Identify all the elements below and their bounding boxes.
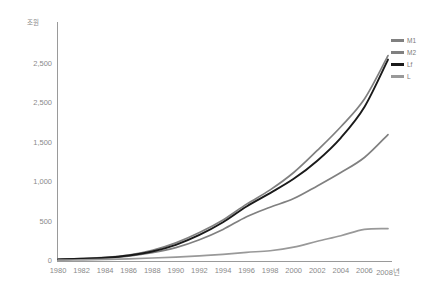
- x-tick-label: 2004: [333, 266, 350, 275]
- x-tick-label: 1980: [50, 266, 67, 275]
- x-axis-labels: 1980198219841986198819901992199419961998…: [0, 266, 437, 282]
- y-tick-label: 1,000: [16, 178, 52, 186]
- x-tick-label: 1990: [168, 266, 185, 275]
- x-tick-label: 1986: [120, 266, 137, 275]
- y-tick-label: 0: [16, 257, 52, 265]
- legend-swatch-icon: [391, 75, 404, 78]
- legend-item-m2[interactable]: M2: [391, 46, 437, 58]
- x-tick-label: 1994: [215, 266, 232, 275]
- chart-legend: M1M2LfL: [391, 34, 437, 82]
- legend-item-m1[interactable]: M1: [391, 34, 437, 46]
- series-group: [58, 56, 388, 261]
- x-tick-label: 2002: [309, 266, 326, 275]
- x-tick-label: 2006: [356, 266, 373, 275]
- legend-label: L: [407, 73, 411, 80]
- legend-label: M2: [407, 49, 416, 56]
- legend-item-l[interactable]: L: [391, 70, 437, 82]
- y-tick-label: 500: [16, 218, 52, 226]
- y-axis-labels: 05001,0001,5002,5002,500: [14, 0, 52, 295]
- series-line-m2: [58, 135, 388, 260]
- legend-swatch-icon: [391, 39, 404, 42]
- x-tick-label: 2008년: [376, 266, 400, 277]
- legend-label: M1: [407, 37, 416, 44]
- y-tick-label: 2,500: [16, 60, 52, 68]
- y-tick-label: 1,500: [16, 139, 52, 147]
- x-tick-label: 1988: [144, 266, 161, 275]
- legend-label: Lf: [407, 61, 412, 68]
- x-tick-label: 1982: [73, 266, 90, 275]
- line-chart: 조원 05001,0001,5002,5002,500 198019821984…: [0, 0, 437, 295]
- legend-swatch-icon: [391, 63, 404, 66]
- legend-item-lf[interactable]: Lf: [391, 58, 437, 70]
- x-tick-label: 1984: [97, 266, 114, 275]
- series-line-l: [58, 229, 388, 261]
- plot-area: [0, 0, 437, 295]
- x-tick-label: 1992: [191, 266, 208, 275]
- x-tick-label: 1996: [238, 266, 255, 275]
- legend-swatch-icon: [391, 51, 404, 54]
- x-tick-label: 1998: [262, 266, 279, 275]
- y-tick-label: 2,500: [16, 99, 52, 107]
- x-tick-label: 2000: [285, 266, 302, 275]
